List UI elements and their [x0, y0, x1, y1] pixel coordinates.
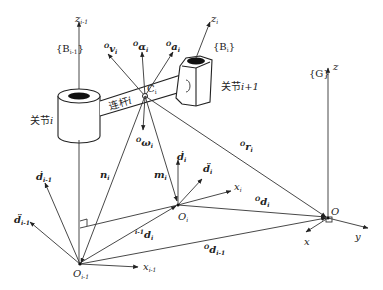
d-im1-ddot-vector: [30, 222, 80, 264]
z-axis-i: [196, 22, 210, 58]
alpha-i-label: Oαi: [133, 40, 149, 53]
joint-ip1-prism: [176, 56, 212, 106]
velocity-vector: [108, 54, 145, 96]
x-i-label: xi: [234, 181, 242, 193]
x-im1-label: xi-1: [143, 261, 156, 273]
y-axis-global: [328, 218, 368, 228]
x-global-label: x: [304, 236, 310, 247]
frame-G-label: {G}: [309, 68, 330, 79]
d-im1-ddot-label: d̈i-1: [14, 213, 30, 226]
m-i-label: mi: [154, 169, 168, 181]
O-d-i-label: Odi: [255, 195, 270, 208]
kinematics-diagram: z {G} O x y zi-1 {Bi-1} 关节i 连杆i 关节i+1 zi…: [0, 0, 383, 290]
frame-B-i-label: {Bi}: [213, 41, 235, 53]
y-global-label: y: [354, 231, 361, 242]
d-i-ddot-vector: [178, 179, 202, 205]
v-i-label: Ovi: [104, 42, 118, 55]
right-angle-mark-im1: [80, 219, 87, 226]
n-i-label: ni: [100, 169, 110, 181]
d-im1-dot-label: ḋi-1: [36, 170, 52, 183]
x-axis-im1: [80, 264, 138, 267]
im1-d-i-label: i-1di: [135, 228, 154, 241]
joint-ip1-label: 关节i+1: [221, 80, 259, 92]
r-i-label: Ori: [240, 140, 254, 153]
z-im1-label: zi-1: [74, 13, 88, 25]
d-i-dot-label: ḋi: [177, 150, 187, 163]
z-i-label: zi: [210, 13, 218, 25]
O-d-i-vector: [178, 205, 326, 217]
im1-d-i-vector: [80, 206, 176, 263]
a-i-label: Oai: [166, 40, 181, 53]
d-i-ddot-label: d̈i: [203, 162, 213, 175]
origin-O-label: O: [331, 206, 339, 217]
joint-i-label: 关节i: [30, 114, 53, 126]
joint-i-cylinder: [58, 89, 100, 143]
O-d-im1-label: Odi-1: [204, 243, 225, 256]
omega-i-label: Oωi: [136, 136, 154, 149]
d-im1-dot-vector: [45, 183, 80, 264]
O-i-label: Oi: [178, 211, 188, 223]
r-i-vector: [145, 96, 326, 217]
z-global-label: z: [332, 61, 339, 72]
frame-B-im1-label: {Bi-1}: [56, 43, 84, 55]
perpendicular-line: [80, 205, 178, 228]
global-frame: z {G} O x y: [304, 61, 368, 247]
x-axis-i: [178, 191, 231, 205]
O-im1-label: Oi-1: [73, 268, 89, 280]
